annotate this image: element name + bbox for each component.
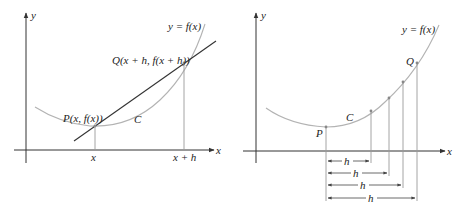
left-y-axis-label: y — [30, 9, 36, 21]
h-label-4: h — [368, 192, 374, 204]
right-point-p — [325, 126, 328, 129]
left-tick-x-plus-h-label: x + h — [172, 151, 197, 163]
right-point-2 — [388, 97, 391, 100]
left-curve-equation-label: y = f(x) — [167, 20, 201, 33]
left-point-p-label: P(x, f(x)) — [62, 112, 103, 125]
right-y-axis-label: y — [260, 9, 266, 21]
right-point-p-label: P — [315, 127, 323, 139]
left-curve-c — [35, 24, 205, 126]
left-x-axis-label: x — [215, 144, 221, 156]
right-panel-limit-diagram: y x h h h h y = f(x) Q P — [243, 9, 452, 204]
right-point-3 — [402, 81, 405, 84]
right-point-q-label: Q — [406, 55, 414, 67]
right-point-1 — [370, 110, 373, 113]
right-curve-name-label: C — [346, 111, 354, 123]
h-label-3: h — [360, 179, 366, 191]
right-curve-equation-label: y = f(x) — [401, 23, 435, 36]
left-tick-x-label: x — [90, 151, 96, 163]
right-point-q — [416, 62, 419, 65]
left-panel-secant-diagram: y x y = f(x) Q(x + h, f(x + h)) P(x, f(x… — [14, 9, 221, 163]
left-point-q-label: Q(x + h, f(x + h)) — [112, 54, 190, 67]
h-label-2: h — [353, 167, 359, 179]
h-label-1: h — [344, 155, 350, 167]
left-curve-name-label: C — [134, 113, 142, 125]
left-point-p — [94, 125, 97, 128]
diagram-canvas: y x y = f(x) Q(x + h, f(x + h)) P(x, f(x… — [0, 0, 460, 207]
right-x-axis-label: x — [446, 145, 452, 157]
